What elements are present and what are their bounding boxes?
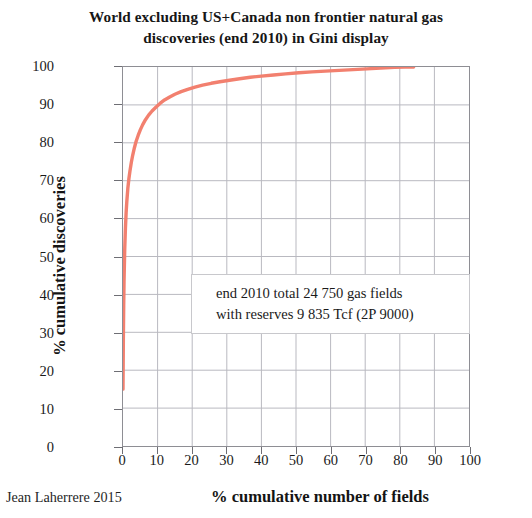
y-axis-tick-mark [114, 142, 122, 143]
annotation-box: end 2010 total 24 750 gas fields with re… [191, 274, 470, 334]
y-axis-tick-mark [114, 104, 122, 105]
x-axis-tick-mark [192, 447, 193, 454]
x-axis-tick-mark [331, 447, 332, 454]
credit-text: Jean Laherrere 2015 [6, 489, 122, 506]
x-axis-tick-mark [296, 447, 297, 454]
y-axis-tick-label: 70 [0, 172, 54, 189]
y-axis-tick-mark [114, 66, 122, 67]
x-axis-tick-mark [366, 447, 367, 454]
y-axis-tick-label: 10 [0, 400, 54, 417]
x-axis-tick-mark [261, 447, 262, 454]
y-axis-tick-label: 100 [0, 58, 54, 75]
y-axis-tick-label: 50 [0, 248, 54, 265]
y-axis-tick-mark [114, 180, 122, 181]
y-axis-tick-label: 0 [0, 439, 54, 456]
y-axis-tick-mark [114, 447, 122, 448]
chart-title: World excluding US+Canada non frontier n… [0, 6, 532, 48]
y-axis-tick-mark [114, 409, 122, 410]
y-axis-tick-mark [114, 295, 122, 296]
x-axis-tick-mark [400, 447, 401, 454]
x-axis-tick-mark [157, 447, 158, 454]
y-axis-tick-mark [114, 371, 122, 372]
y-axis-tick-mark [114, 333, 122, 334]
y-axis-label: % cumulative discoveries [50, 116, 70, 416]
x-axis-tick-mark [226, 447, 227, 454]
x-axis-tick-label: 100 [450, 452, 490, 469]
y-axis-tick-label: 40 [0, 286, 54, 303]
x-axis-tick-mark [470, 447, 471, 454]
y-axis-tick-mark [114, 257, 122, 258]
chart-title-line-1: World excluding US+Canada non frontier n… [0, 6, 532, 27]
y-axis-tick-label: 90 [0, 96, 54, 113]
y-axis-tick-label: 20 [0, 362, 54, 379]
chart-title-line-2: discoveries (end 2010) in Gini display [0, 27, 532, 48]
y-axis-tick-label: 30 [0, 324, 54, 341]
plot-area [122, 66, 470, 447]
y-axis-tick-label: 60 [0, 210, 54, 227]
x-axis-label: % cumulative number of fields [150, 487, 490, 507]
y-axis-tick-label: 80 [0, 134, 54, 151]
annotation-line-2: with reserves 9 835 Tcf (2P 9000) [216, 304, 469, 325]
x-axis-tick-mark [122, 447, 123, 454]
y-axis-tick-mark [114, 218, 122, 219]
discovery-curve [123, 67, 469, 446]
annotation-line-1: end 2010 total 24 750 gas fields [216, 283, 469, 304]
x-axis-tick-mark [435, 447, 436, 454]
